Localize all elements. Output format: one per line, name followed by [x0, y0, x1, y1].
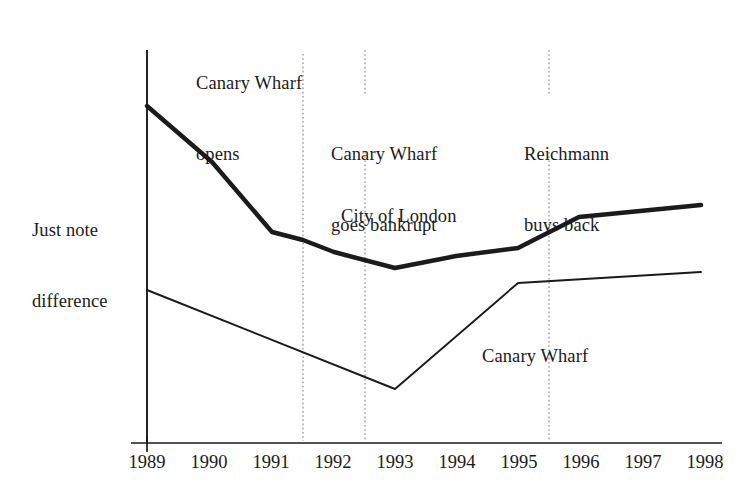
annotation-reichmann-buys-back: Reichmann buys back	[524, 96, 674, 285]
series-label-canary-wharf: Canary Wharf	[482, 345, 588, 369]
x-tick-1993: 1993	[365, 452, 425, 473]
chart-figure: Just note difference Canary Wharf opens …	[0, 0, 754, 502]
annotation-reichmann-buys-back-line1: Reichmann	[524, 143, 674, 167]
x-tick-1996: 1996	[551, 452, 611, 473]
x-tick-1989: 1989	[117, 452, 177, 473]
annotation-canary-wharf-opens-line1: Canary Wharf	[196, 72, 356, 96]
x-tick-1997: 1997	[613, 452, 673, 473]
x-tick-1991: 1991	[241, 452, 301, 473]
annotation-canary-wharf-goes-bankrupt: Canary Wharf goes bankrupt	[331, 96, 511, 285]
y-axis-label-line1: Just note	[32, 219, 147, 243]
x-tick-1998: 1998	[675, 452, 735, 473]
x-tick-1995: 1995	[489, 452, 549, 473]
x-tick-1994: 1994	[427, 452, 487, 473]
series-label-city-of-london: City of London	[341, 205, 456, 229]
annotation-reichmann-buys-back-line2: buys back	[524, 214, 674, 238]
y-axis-label-line2: difference	[32, 290, 147, 314]
y-axis-label: Just note difference	[32, 172, 147, 361]
x-tick-1990: 1990	[179, 452, 239, 473]
x-axis-tick-labels: 1989 1990 1991 1992 1993 1994 1995 1996 …	[0, 452, 754, 482]
annotation-canary-wharf-goes-bankrupt-line1: Canary Wharf	[331, 143, 511, 167]
x-tick-1992: 1992	[303, 452, 363, 473]
series-line-canary-wharf	[147, 272, 701, 389]
